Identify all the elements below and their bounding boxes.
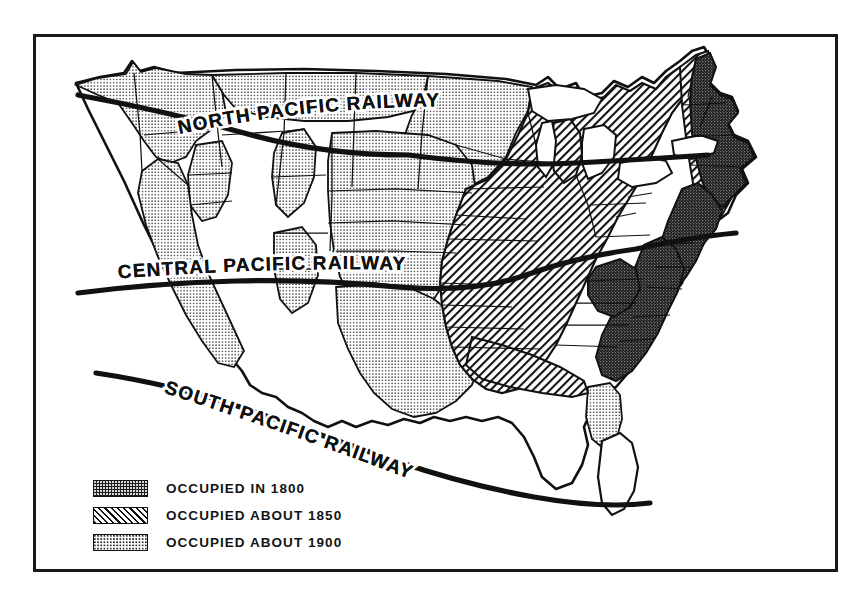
legend-item-1900: OCCUPIED ABOUT 1900 [93,529,393,556]
legend-label-1900: OCCUPIED ABOUT 1900 [166,535,342,550]
legend-label-1800: OCCUPIED IN 1800 [166,481,305,496]
map-legend: OCCUPIED IN 1800 OCCUPIED ABOUT 1850 OCC… [93,475,393,556]
figure-page: NORTH PACIFIC RAILWAY NORTH PACIFIC RAIL… [0,0,864,602]
legend-swatch-1850 [93,507,148,524]
map-canvas: NORTH PACIFIC RAILWAY NORTH PACIFIC RAIL… [36,37,835,569]
legend-item-1800: OCCUPIED IN 1800 [93,475,393,502]
legend-swatch-1900 [93,534,148,551]
map-frame: NORTH PACIFIC RAILWAY NORTH PACIFIC RAIL… [33,34,838,572]
legend-swatch-1800 [93,480,148,497]
legend-label-1850: OCCUPIED ABOUT 1850 [166,508,342,523]
legend-item-1850: OCCUPIED ABOUT 1850 [93,502,393,529]
